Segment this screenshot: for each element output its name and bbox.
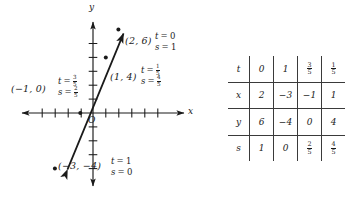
cell-fraction: 2 5: [307, 141, 312, 155]
y-axis-label: y: [89, 3, 94, 12]
param-s-symbol: s: [155, 43, 159, 52]
param-t-equals: =: [146, 66, 154, 75]
cell-s-4: 4 5: [322, 135, 346, 161]
param-stack-neg1-0: t = 3 5 s = 2 5: [58, 76, 78, 97]
row-header-s: s: [228, 135, 250, 161]
cell-t-1: 0: [250, 56, 274, 82]
row-header-y: y: [228, 109, 250, 136]
fraction-denominator: 5: [74, 92, 79, 99]
value-table: t 0 1 3 5 1: [228, 56, 345, 161]
param-row-s: s = 4 5: [141, 76, 161, 86]
cell-t-2: 1: [274, 56, 298, 82]
point-marker-1-4: [104, 55, 108, 59]
table-row-x: x 2 −3 −1 1: [228, 82, 345, 109]
fraction-numerator: 3: [307, 62, 312, 69]
param-stack-2-6: t = 0 s = 1: [155, 31, 177, 52]
x-axis: [22, 109, 184, 118]
param-t-equals: =: [63, 77, 71, 86]
param-row-s: s = 1: [155, 42, 177, 52]
fraction-numerator: 4: [331, 141, 336, 148]
point-label-2-6: (2, 6): [125, 36, 152, 46]
fraction-numerator: 1: [331, 62, 336, 69]
param-t-symbol: t: [58, 77, 61, 86]
param-s-equals: =: [64, 88, 72, 97]
point-label-neg1-0: (−1, 0): [11, 84, 46, 94]
point-marker-2-6: [116, 28, 120, 32]
param-s-value: 0: [127, 168, 133, 177]
graph-canvas: [0, 0, 215, 199]
param-s-symbol: s: [111, 168, 115, 177]
cell-s-3: 2 5: [298, 135, 322, 161]
cell-t-3: 3 5: [298, 56, 322, 82]
point-marker-neg3-neg4: [53, 167, 57, 171]
origin-label: O: [88, 116, 95, 125]
cell-x-3: −1: [298, 82, 322, 109]
param-t-equals: =: [160, 32, 168, 41]
cell-fraction: 4 5: [331, 141, 336, 155]
param-s-symbol: s: [141, 77, 145, 86]
cell-fraction: 3 5: [307, 62, 312, 76]
cell-s-2: 0: [274, 135, 298, 161]
param-row-t: t = 1: [111, 156, 133, 166]
cell-s-1: 1: [250, 135, 274, 161]
param-s-equals: =: [147, 77, 155, 86]
coordinate-graph: y x O (2, 6) t = 0 s = 1 (1, 4) t = 1: [0, 0, 215, 199]
param-s-fraction: 4 5: [157, 75, 162, 88]
fraction-denominator: 5: [307, 68, 312, 76]
table-row-y: y 6 −4 0 4: [228, 109, 345, 136]
cell-value: 1: [283, 64, 289, 74]
point-label-neg3-neg4: (−3, −4): [58, 161, 101, 171]
param-s-fraction: 2 5: [74, 86, 79, 99]
param-t-value: 1: [126, 157, 132, 166]
param-stack-neg3-neg4: t = 1 s = 0: [111, 156, 133, 177]
param-t-symbol: t: [141, 66, 144, 75]
param-row-s: s = 0: [111, 167, 133, 177]
param-stack-1-4: t = 1 5 s = 4 5: [141, 65, 161, 86]
param-s-symbol: s: [58, 88, 62, 97]
cell-y-4: 4: [322, 109, 346, 136]
param-t-symbol: t: [155, 32, 158, 41]
param-t-equals: =: [116, 157, 124, 166]
row-header-x: x: [228, 82, 250, 109]
fraction-denominator: 5: [307, 148, 312, 156]
param-t-symbol: t: [111, 157, 114, 166]
cell-value: 0: [259, 64, 265, 74]
table-row-t: t 0 1 3 5 1: [228, 56, 345, 82]
x-axis-label: x: [188, 107, 193, 116]
fraction-numerator: 2: [307, 141, 312, 148]
value-table-panel: t 0 1 3 5 1: [228, 56, 341, 158]
fraction-denominator: 5: [331, 148, 336, 156]
param-t-value: 0: [170, 32, 176, 41]
param-s-value: 1: [171, 43, 177, 52]
cell-value: 0: [283, 143, 289, 153]
cell-x-4: 1: [322, 82, 346, 109]
point-label-1-4: (1, 4): [110, 72, 137, 82]
param-s-equals: =: [117, 168, 125, 177]
plotted-points: [53, 28, 121, 171]
param-row-s: s = 2 5: [58, 87, 78, 97]
figure-root: y x O (2, 6) t = 0 s = 1 (1, 4) t = 1: [0, 0, 350, 199]
cell-value: 1: [259, 143, 265, 153]
cell-y-2: −4: [274, 109, 298, 136]
cell-x-2: −3: [274, 82, 298, 109]
row-header-t: t: [228, 56, 250, 82]
fraction-denominator: 5: [331, 68, 336, 76]
fraction-denominator: 5: [157, 81, 162, 88]
cell-y-3: 0: [298, 109, 322, 136]
param-s-equals: =: [161, 43, 169, 52]
cell-fraction: 1 5: [331, 62, 336, 76]
point-marker-neg1-0: [78, 111, 82, 115]
cell-x-1: 2: [250, 82, 274, 109]
cell-y-1: 6: [250, 109, 274, 136]
param-row-t: t = 0: [155, 31, 177, 41]
plotted-line: [68, 34, 124, 170]
cell-t-4: 1 5: [322, 56, 346, 82]
table-row-s: s 1 0 2 5 4: [228, 135, 345, 161]
